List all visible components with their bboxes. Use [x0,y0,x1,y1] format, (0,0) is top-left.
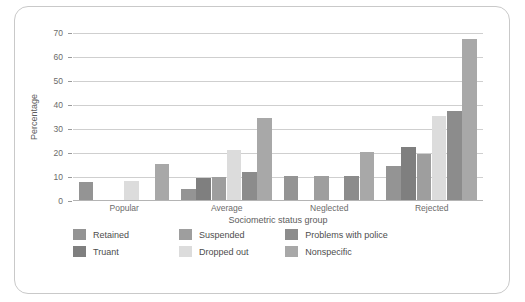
y-tick-label: 0 [39,196,63,206]
y-tick-label: 60 [39,52,63,62]
y-tick-mark [68,129,72,130]
legend-row: TruantDropped outNonspecific [73,246,403,257]
legend-item[interactable]: Nonspecific [285,246,403,257]
y-axis-title: Percentage [29,94,39,140]
bar [314,176,329,200]
y-tick-label: 40 [39,100,63,110]
legend-swatch-icon [73,229,86,240]
legend-item[interactable]: Dropped out [179,246,285,257]
y-tick-label: 70 [39,28,63,38]
legend-swatch-icon [73,246,86,257]
x-category-label: Average [211,203,243,213]
y-tick-label: 50 [39,76,63,86]
gridline [73,57,483,58]
bar-chart: Percentage Sociometric status group Reta… [0,0,525,302]
y-tick-mark [68,57,72,58]
bar [462,39,477,200]
y-tick-label: 30 [39,124,63,134]
x-axis-title: Sociometric status group [73,215,483,225]
bar [417,154,432,200]
bar [386,166,401,200]
y-tick-mark [68,153,72,154]
legend-item[interactable]: Suspended [179,229,285,240]
bar [227,150,242,200]
legend-swatch-icon [285,246,298,257]
plot-area [73,33,483,201]
legend-swatch-icon [179,246,192,257]
bar [155,164,170,200]
bar [284,176,299,200]
legend-item[interactable]: Retained [73,229,179,240]
bar [196,178,211,200]
legend-swatch-icon [285,229,298,240]
chart-legend: RetainedSuspendedProblems with policeTru… [73,229,403,263]
legend-label: Truant [93,247,119,257]
y-tick-mark [68,81,72,82]
bar [447,111,462,200]
x-category-label: Popular [110,203,139,213]
gridline [73,129,483,130]
legend-label: Suspended [199,230,245,240]
y-tick-mark [68,33,72,34]
gridline [73,33,483,34]
legend-item[interactable]: Truant [73,246,179,257]
y-tick-mark [68,201,72,202]
legend-label: Dropped out [199,247,249,257]
bar [344,176,359,200]
y-tick-label: 20 [39,148,63,158]
legend-label: Retained [93,230,129,240]
gridline [73,81,483,82]
y-tick-mark [68,177,72,178]
legend-swatch-icon [179,229,192,240]
legend-item[interactable]: Problems with police [285,229,403,240]
bar [242,172,257,200]
gridline [73,105,483,106]
bar [432,116,447,200]
x-category-label: Neglected [310,203,348,213]
x-category-label: Rejected [415,203,449,213]
bar [360,152,375,200]
bar [181,189,196,200]
bar [212,177,227,200]
bar [257,118,272,200]
legend-row: RetainedSuspendedProblems with police [73,229,403,240]
bar [79,182,94,200]
legend-label: Problems with police [305,230,388,240]
bar [124,181,139,200]
y-tick-label: 10 [39,172,63,182]
bar [401,147,416,200]
y-tick-mark [68,105,72,106]
legend-label: Nonspecific [305,247,352,257]
